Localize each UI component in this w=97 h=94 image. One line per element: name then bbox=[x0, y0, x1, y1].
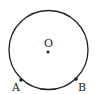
label-o: O bbox=[44, 37, 53, 50]
center-point-o bbox=[47, 51, 50, 54]
circle-diagram: O A B bbox=[0, 0, 97, 94]
label-a: A bbox=[11, 81, 21, 94]
label-b: B bbox=[78, 81, 86, 94]
